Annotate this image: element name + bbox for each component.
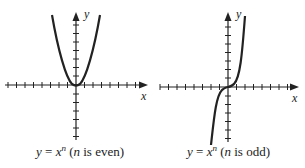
left-x-axis-label: x [140, 89, 147, 103]
left-y-axis-label: y [83, 7, 90, 21]
caption-exponent: n [61, 143, 66, 153]
caption-equals: = [196, 144, 203, 159]
y-axis-arrow-icon [225, 12, 232, 21]
x-axis-arrow-icon [139, 82, 148, 89]
odd-caption: y = xn (n is odd) [187, 143, 270, 160]
even-caption: y = xn (n is even) [36, 143, 124, 160]
caption-y: y [36, 144, 42, 159]
caption-equals: = [45, 144, 52, 159]
right-x-axis-label: x [291, 91, 298, 105]
caption-exponent: n [212, 143, 217, 153]
caption-y: y [187, 144, 193, 159]
y-axis-arrow-icon [73, 12, 80, 21]
even-plot [5, 12, 148, 140]
caption-text: is even) [80, 144, 124, 159]
odd-plot [160, 12, 299, 145]
caption-text: is odd) [231, 144, 270, 159]
x-axis-arrow-icon [290, 84, 299, 91]
right-y-axis-label: y [235, 7, 242, 21]
